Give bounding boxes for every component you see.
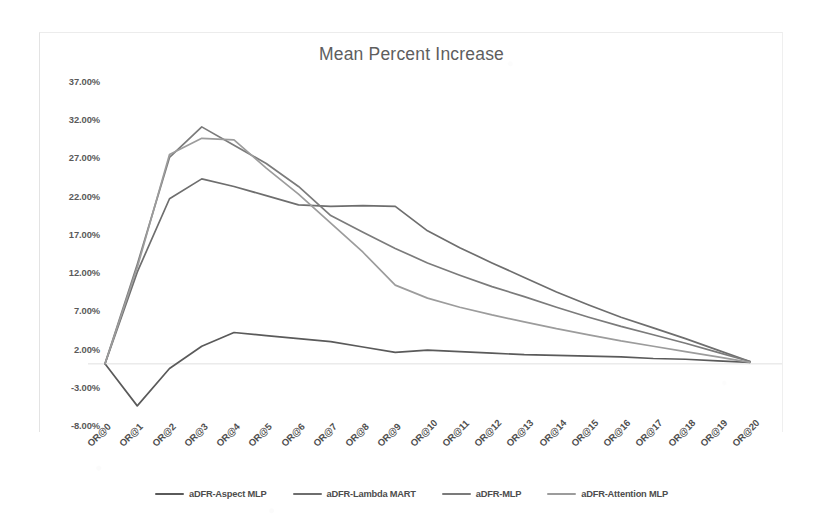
x-axis-tick-label: OR@4 [214, 421, 242, 449]
x-axis-tick-label: OR@9 [375, 421, 403, 449]
x-axis-tick-label: OR@10 [408, 417, 439, 448]
x-axis-tick-label: OR@17 [633, 417, 664, 448]
legend-line-swatch [547, 493, 576, 495]
chart-legend: aDFR-Aspect MLPaDFR-Lambda MARTaDFR-MLPa… [0, 489, 823, 499]
legend-line-swatch [442, 493, 471, 495]
legend-label: aDFR-Attention MLP [581, 489, 668, 499]
legend-line-swatch [293, 493, 322, 495]
x-axis-tick-label: OR@16 [601, 417, 632, 448]
x-axis-tick-label: OR@19 [698, 417, 729, 448]
legend-item[interactable]: aDFR-Lambda MART [293, 489, 416, 499]
x-axis-tick-label: OR@5 [246, 421, 274, 449]
x-axis-tick-label: OR@3 [182, 421, 210, 449]
legend-label: aDFR-Lambda MART [327, 489, 416, 499]
x-axis-tick-label: OR@0 [85, 421, 113, 449]
x-axis-tick-label: OR@20 [730, 417, 761, 448]
legend-label: aDFR-MLP [476, 489, 521, 499]
x-axis-tick-label: OR@13 [504, 417, 535, 448]
x-axis-tick-label: OR@15 [569, 417, 600, 448]
legend-line-swatch [155, 493, 184, 495]
legend-item[interactable]: aDFR-Aspect MLP [155, 489, 267, 499]
x-axis-tick-label: OR@8 [343, 421, 371, 449]
x-axis-tick-label: OR@12 [472, 417, 503, 448]
x-axis-tick-label: OR@14 [537, 417, 568, 448]
legend-label: aDFR-Aspect MLP [189, 489, 267, 499]
x-axis-tick-label: OR@2 [150, 421, 178, 449]
x-axis: OR@0OR@1OR@2OR@3OR@4OR@5OR@6OR@7OR@8OR@9… [0, 0, 823, 532]
x-axis-tick-label: OR@1 [117, 421, 145, 449]
legend-item[interactable]: aDFR-Attention MLP [547, 489, 668, 499]
x-axis-tick-label: OR@6 [279, 421, 307, 449]
legend-item[interactable]: aDFR-MLP [442, 489, 521, 499]
x-axis-tick-label: OR@18 [666, 417, 697, 448]
chart-container: Mean Percent Increase 37.00%32.00%27.00%… [0, 0, 823, 532]
x-axis-tick-label: OR@11 [440, 418, 471, 449]
x-axis-tick-label: OR@7 [311, 421, 339, 449]
